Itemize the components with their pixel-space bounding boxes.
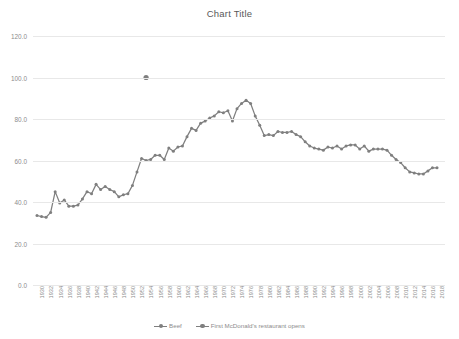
x-axis: 1930193219341936193819401942194419461948… [33,286,445,320]
x-axis-tick-label: 1956 [158,286,164,298]
data-point-beef [140,157,143,160]
data-point-beef [258,124,261,127]
x-axis-tick-label: 1962 [185,286,191,298]
x-axis-tick-label: 2010 [403,286,409,298]
data-point-beef [226,109,229,112]
x-axis-tick-label: 1970 [221,286,227,298]
gridline [33,202,445,203]
x-axis-tick-label: 1982 [276,286,282,298]
data-point-beef [286,131,289,134]
data-point-beef [372,148,375,151]
data-point-beef [136,170,139,173]
data-point-beef [267,133,270,136]
data-point-beef [367,150,370,153]
x-axis-tick-label: 1988 [303,286,309,298]
x-axis-tick-label: 1960 [176,286,182,298]
x-axis-tick-label: 1930 [39,286,45,298]
data-point-beef [322,149,325,152]
x-axis-tick-label: 1968 [212,286,218,298]
x-axis-tick-label: 1946 [112,286,118,298]
data-point-beef [399,161,402,164]
data-point-beef [126,192,129,195]
data-point-beef [108,188,111,191]
x-axis-tick-label: 2012 [412,286,418,298]
x-axis-tick-label: 2000 [358,286,364,298]
y-axis-tick-label: 20.0 [15,240,27,247]
data-point-beef [358,148,361,151]
x-axis-tick-label: 1932 [48,286,54,298]
data-point-beef [236,107,239,110]
data-point-beef [299,135,302,138]
data-point-beef [90,192,93,195]
data-point-beef [49,211,52,214]
data-point-beef [417,172,420,175]
data-point-beef [45,216,48,219]
x-axis-tick-label: 1964 [194,286,200,298]
x-axis-tick-label: 2018 [439,286,445,298]
x-axis-tick-label: 1944 [103,286,109,298]
data-point-beef [99,188,102,191]
data-point-beef [213,114,216,117]
data-point-beef [245,99,248,102]
x-axis-tick-label: 1940 [85,286,91,298]
data-point-beef [81,197,84,200]
data-point-beef [413,171,416,174]
x-axis-tick-label: 2004 [376,286,382,298]
data-point-beef [249,102,252,105]
x-axis-tick-label: 1978 [258,286,264,298]
data-point-beef [340,148,343,151]
chart-legend: BeefFirst McDonald's restaurant opens [0,322,459,330]
data-point-beef [276,130,279,133]
y-axis-tick-label: 60.0 [15,157,27,164]
chart-title: Chart Title [0,8,459,19]
x-axis-tick-label: 1998 [348,286,354,298]
data-point-beef [263,134,266,137]
data-point-beef [404,166,407,169]
data-point-beef [186,135,189,138]
data-point-beef [354,143,357,146]
data-point-beef [63,198,66,201]
y-axis-tick-label: 40.0 [15,199,27,206]
x-axis-tick-label: 1938 [76,286,82,298]
x-axis-tick-label: 1948 [121,286,127,298]
x-axis-tick-label: 1990 [312,286,318,298]
gridline [33,78,445,79]
data-point-beef [131,184,134,187]
data-point-beef [222,111,225,114]
gridline [33,161,445,162]
data-point-beef [308,144,311,147]
data-point-beef [240,102,243,105]
x-axis-tick-label: 2008 [394,286,400,298]
data-point-beef [122,193,125,196]
x-axis-tick-label: 1942 [94,286,100,298]
data-point-beef [408,170,411,173]
legend-label: Beef [169,322,182,330]
data-point-beef [381,148,384,151]
chart-container: Chart Title 0.020.040.060.080.0100.0120.… [0,0,459,339]
data-point-beef [76,204,79,207]
data-point-beef [336,144,339,147]
data-point-beef [422,172,425,175]
legend-entry[interactable]: Beef [154,322,182,330]
x-axis-tick-label: 1994 [330,286,336,298]
data-point-beef [317,148,320,151]
x-axis-tick-label: 1976 [248,286,254,298]
y-axis-tick-label: 120.0 [11,33,27,40]
x-axis-tick-label: 1984 [285,286,291,298]
data-point-beef [281,131,284,134]
legend-label: First McDonald's restaurant opens [211,322,305,330]
data-point-beef [113,190,116,193]
data-point-beef [290,130,293,133]
gridline [33,119,445,120]
x-axis-tick-label: 1936 [67,286,73,298]
y-axis-tick-label: 80.0 [15,116,27,123]
data-point-beef [326,146,329,149]
data-point-beef [390,154,393,157]
data-point-beef [304,140,307,143]
data-point-beef [167,147,170,150]
data-point-beef [254,114,257,117]
legend-entry[interactable]: First McDonald's restaurant opens [196,322,305,330]
data-point-beef [204,120,207,123]
x-axis-tick-label: 1992 [321,286,327,298]
legend-marker-icon [196,323,209,330]
